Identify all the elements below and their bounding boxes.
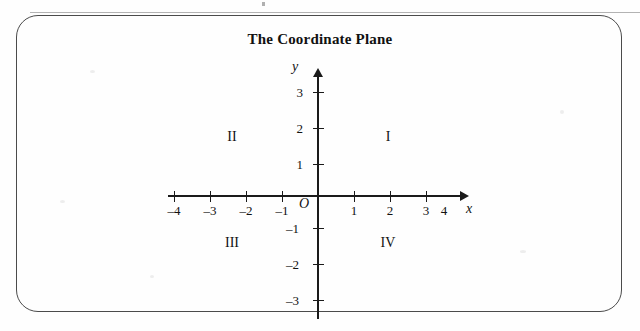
paper-speck <box>150 275 154 278</box>
x-axis-line <box>168 195 463 197</box>
coordinate-plane-plot: –4 –3 –2 –1 1 2 3 4 3 2 1 –1 –2 –3 x y O… <box>0 0 640 331</box>
x-axis-arrowhead <box>460 191 469 201</box>
x-tick-label: 2 <box>377 203 403 219</box>
origin-label: O <box>299 196 309 212</box>
y-tick-mark <box>313 300 324 302</box>
y-tick-label: –3 <box>273 293 299 309</box>
y-axis-arrowhead <box>313 68 323 77</box>
y-tick-mark <box>313 128 324 130</box>
y-axis-label: y <box>292 59 298 75</box>
x-tick-mark <box>390 191 392 202</box>
y-tick-label: 2 <box>277 121 303 137</box>
x-tick-mark <box>174 191 176 202</box>
x-tick-label: 1 <box>341 203 367 219</box>
x-tick-label: –2 <box>233 203 259 219</box>
y-tick-mark <box>313 164 324 166</box>
x-tick-mark <box>354 191 356 202</box>
quadrant-label-two: II <box>212 129 252 145</box>
x-tick-label: –3 <box>197 203 223 219</box>
x-tick-label: –1 <box>269 203 295 219</box>
paper-speck <box>90 70 95 73</box>
y-tick-mark <box>313 264 324 266</box>
y-tick-label: 3 <box>277 85 303 101</box>
quadrant-label-one: I <box>368 129 408 145</box>
figure-page: The Coordinate Plane –4 –3 –2 –1 1 2 3 4… <box>0 0 640 331</box>
paper-speck <box>60 200 65 203</box>
x-tick-mark <box>282 191 284 202</box>
quadrant-label-three: III <box>212 235 252 251</box>
x-axis-label: x <box>466 201 472 217</box>
y-tick-mark <box>313 92 324 94</box>
x-tick-mark <box>246 191 248 202</box>
y-tick-label: 1 <box>277 157 303 173</box>
y-tick-mark <box>313 228 324 230</box>
paper-speck <box>560 110 564 114</box>
x-tick-mark <box>210 191 212 202</box>
y-tick-label: –1 <box>273 221 299 237</box>
x-tick-label: –4 <box>161 203 187 219</box>
quadrant-label-four: IV <box>368 235 408 251</box>
x-tick-mark <box>426 191 428 202</box>
x-tick-label: 4 <box>431 203 457 219</box>
y-axis-line <box>317 75 319 319</box>
paper-speck <box>520 250 526 253</box>
y-tick-label: –2 <box>273 257 299 273</box>
